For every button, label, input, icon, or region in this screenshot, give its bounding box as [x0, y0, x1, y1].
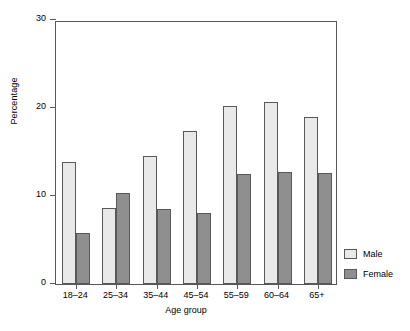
- y-axis-tick-label: 20: [36, 101, 46, 111]
- legend-label: Male: [363, 249, 383, 259]
- y-axis-tick-label: 30: [36, 13, 46, 23]
- x-axis-tick-label: 60–64: [264, 290, 289, 300]
- x-axis-tick-label: 45–54: [183, 290, 208, 300]
- x-axis-tick: [76, 284, 77, 289]
- y-axis-tick: 30: [50, 19, 56, 20]
- y-axis-tick: 10: [50, 195, 56, 196]
- bar-chart-figure: Percentage 0102030 18–2425–3435–4445–545…: [0, 0, 410, 331]
- bar-female-0: [76, 233, 90, 284]
- bar-male-2: [143, 156, 157, 284]
- y-axis-tick: 0: [50, 283, 56, 284]
- bar-male-6: [304, 117, 318, 284]
- y-axis-tick: 20: [50, 107, 56, 108]
- bar-male-3: [183, 131, 197, 284]
- y-axis-tick-label: 10: [36, 189, 46, 199]
- legend-label: Female: [363, 269, 393, 279]
- male-swatch: [344, 249, 357, 259]
- female-swatch: [344, 269, 357, 279]
- bar-male-0: [62, 162, 76, 284]
- x-axis-tick: [278, 284, 279, 289]
- x-axis-tick-label: 55–59: [224, 290, 249, 300]
- bar-male-5: [264, 102, 278, 284]
- x-axis-tick-label: 65+: [309, 290, 324, 300]
- bar-male-4: [223, 106, 237, 284]
- legend-item-female: Female: [344, 264, 393, 284]
- x-axis-title-text: Age group: [165, 305, 207, 315]
- x-axis-title: Age group: [0, 305, 410, 315]
- bar-female-4: [237, 174, 251, 284]
- x-axis-tick-label: 18–24: [63, 290, 88, 300]
- bar-male-1: [102, 208, 116, 284]
- x-axis-tick-label: 25–34: [103, 290, 128, 300]
- y-axis-title: Percentage: [9, 41, 19, 161]
- x-axis-tick: [318, 284, 319, 289]
- bar-female-1: [116, 193, 130, 284]
- plot-area: 0102030: [55, 21, 337, 285]
- x-axis-tick: [116, 284, 117, 289]
- x-axis-tick: [197, 284, 198, 289]
- bar-female-6: [318, 173, 332, 284]
- bar-female-2: [157, 209, 171, 284]
- bar-female-5: [278, 172, 292, 284]
- y-axis-tick-label: 0: [41, 277, 46, 287]
- x-axis-tick-label: 35–44: [143, 290, 168, 300]
- x-axis-tick: [157, 284, 158, 289]
- legend-item-male: Male: [344, 244, 393, 264]
- bar-female-3: [197, 213, 211, 284]
- chart-legend: MaleFemale: [344, 244, 393, 284]
- x-axis-tick: [237, 284, 238, 289]
